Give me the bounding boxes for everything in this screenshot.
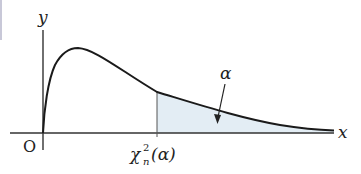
diagram-canvas: y x O α χ 2 n (α) bbox=[0, 0, 361, 174]
y-axis-label: y bbox=[37, 7, 48, 27]
chi-superscript: 2 bbox=[143, 142, 149, 153]
critical-value-label: χ 2 n (α) bbox=[129, 142, 176, 167]
chi-subscript: n bbox=[143, 156, 149, 167]
chi-argument: (α) bbox=[151, 144, 176, 164]
area-alpha-label: α bbox=[220, 63, 232, 83]
chi-symbol: χ bbox=[129, 144, 142, 164]
origin-label: O bbox=[23, 137, 36, 156]
chi-square-diagram: y x O α χ 2 n (α) bbox=[0, 0, 361, 174]
tail-area-shade bbox=[157, 92, 334, 133]
x-axis-label: x bbox=[338, 122, 348, 142]
